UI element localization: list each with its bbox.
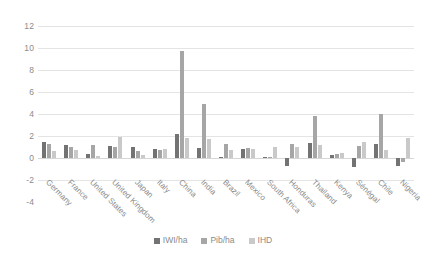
legend-item[interactable]: IWI/ha [154, 236, 188, 245]
bar-slot [69, 26, 73, 180]
bar [64, 145, 68, 158]
y-axis-tick-label: 0 [4, 154, 34, 163]
bar-group [326, 26, 348, 180]
bar-slot [175, 26, 179, 180]
bar-slot [42, 26, 46, 180]
bar-chart: 121086420-2-4 GermanyFranceUnited States… [0, 0, 426, 270]
bar [69, 147, 73, 158]
bar-group [370, 26, 392, 180]
y-axis: 121086420-2-4 [0, 0, 34, 270]
bar [340, 153, 344, 159]
bar-slot [202, 26, 206, 180]
bar-slot [47, 26, 51, 180]
y-axis-tick-label: 10 [4, 44, 34, 53]
bar-slot [108, 26, 112, 180]
bar [185, 138, 189, 158]
bar-slot [379, 26, 383, 180]
bar [224, 144, 228, 158]
bar-slot [318, 26, 322, 180]
bar-slot [185, 26, 189, 180]
bar-slot [330, 26, 334, 180]
bar [251, 149, 255, 158]
bar-slot [74, 26, 78, 180]
bar-slot [352, 26, 356, 180]
bar-slot [118, 26, 122, 180]
bar-group [193, 26, 215, 180]
bar-group [82, 26, 104, 180]
bar-slot [64, 26, 68, 180]
bar [113, 147, 117, 158]
bar-group [304, 26, 326, 180]
bar-slot [374, 26, 378, 180]
bar-slot [113, 26, 117, 180]
bar-slot [290, 26, 294, 180]
bar-slot [313, 26, 317, 180]
bar-slot [401, 26, 405, 180]
bar [406, 138, 410, 158]
bar-slot [268, 26, 272, 180]
bar [330, 155, 334, 158]
y-axis-tick-label: 12 [4, 22, 34, 31]
bar-group [38, 26, 60, 180]
bar [158, 150, 162, 158]
bar [318, 145, 322, 158]
bar [202, 104, 206, 158]
bar-slot [86, 26, 90, 180]
bar [47, 144, 51, 158]
legend-item[interactable]: IHD [249, 236, 273, 245]
bar-slot [335, 26, 339, 180]
bar-slot [91, 26, 95, 180]
bar-slot [263, 26, 267, 180]
legend-swatch-icon [201, 238, 207, 244]
legend-item[interactable]: Pib/ha [201, 236, 234, 245]
bar [263, 157, 267, 158]
bar [241, 149, 245, 158]
y-axis-tick-label: -2 [4, 176, 34, 185]
bar-slot [96, 26, 100, 180]
bar [308, 143, 312, 158]
bar-slot [153, 26, 157, 180]
bar [246, 148, 250, 158]
bar-slot [207, 26, 211, 180]
bar [285, 158, 289, 166]
bar [219, 157, 223, 158]
y-axis-tick-label: 4 [4, 110, 34, 119]
bar [268, 157, 272, 158]
bar-slot [197, 26, 201, 180]
bar-group [237, 26, 259, 180]
bar-group [281, 26, 303, 180]
y-axis-tick-label: -4 [4, 198, 34, 207]
bar [290, 144, 294, 158]
bar [401, 158, 405, 162]
bar-groups [38, 26, 414, 180]
bar-slot [52, 26, 56, 180]
bar-slot [163, 26, 167, 180]
bar-slot [362, 26, 366, 180]
bar [153, 149, 157, 158]
bar [207, 139, 211, 158]
plot-area [38, 26, 414, 180]
y-axis-tick-label: 6 [4, 88, 34, 97]
bar-slot [308, 26, 312, 180]
bar [180, 51, 184, 158]
bar-slot [241, 26, 245, 180]
bar [91, 145, 95, 158]
bar-slot [295, 26, 299, 180]
legend-label: IHD [258, 236, 273, 245]
bar [357, 146, 361, 158]
bar-slot [285, 26, 289, 180]
legend-label: Pib/ha [210, 236, 234, 245]
bar [42, 142, 46, 159]
bar-slot [131, 26, 135, 180]
bar-group [60, 26, 82, 180]
bar-group [259, 26, 281, 180]
bar [374, 144, 378, 158]
bar [384, 150, 388, 158]
bar-slot [229, 26, 233, 180]
bar-slot [141, 26, 145, 180]
bar-group [348, 26, 370, 180]
bar-slot [158, 26, 162, 180]
bar-group [392, 26, 414, 180]
bar-group [127, 26, 149, 180]
bar [74, 150, 78, 158]
